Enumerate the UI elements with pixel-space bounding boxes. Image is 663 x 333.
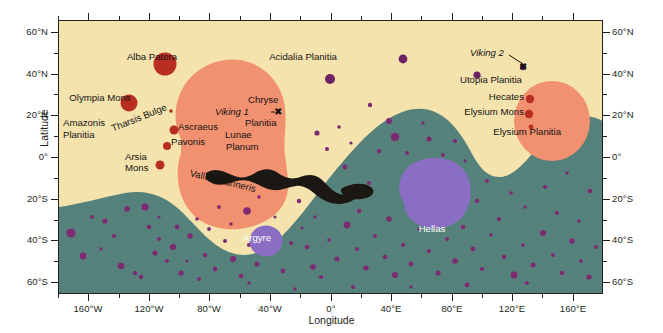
tick-label-lon-0: 160°W	[58, 303, 118, 314]
tick-label-lon-4: 0°	[301, 303, 361, 314]
tick-lon-bottom-8	[573, 294, 574, 301]
tick-lat-right-minor-0	[603, 53, 607, 54]
label-olympia-mons: Olympia Mons	[45, 93, 155, 104]
tick-lon-bottom-7	[512, 294, 513, 301]
label-utopia-planitia: Utopia Planitia	[460, 75, 522, 86]
tick-lon-top-3	[270, 13, 271, 20]
tick-lat-right-2	[603, 115, 610, 116]
tick-lat-left-minor-1	[54, 94, 58, 95]
tick-lon-top-5	[391, 13, 392, 20]
tick-lon-bottom-minor-4	[361, 294, 362, 298]
volcano-hecates-tholus	[526, 95, 534, 103]
label-elysium-planitia: Elysium Planitia	[451, 127, 561, 138]
tick-label-lon-3: 40°W	[240, 303, 300, 314]
label-viking-2: Viking 2	[470, 48, 504, 59]
tick-lat-left-3	[51, 157, 58, 158]
hellas-basin-shape	[399, 158, 471, 229]
tick-lat-right-5	[603, 240, 610, 241]
label-amazonis-planitia-line2: Planitia	[63, 130, 94, 141]
tick-lon-bottom-minor-7	[542, 294, 543, 298]
label-chryse-planitia: Chryse	[248, 95, 278, 106]
tick-lat-left-minor-3	[54, 178, 58, 179]
tick-lat-left-minor-5	[54, 261, 58, 262]
tick-lon-bottom-2	[209, 294, 210, 301]
tick-lat-right-6	[603, 282, 610, 283]
y-axis-label: Latitude	[38, 83, 50, 173]
tick-lon-top-minor-3	[300, 16, 301, 20]
label-amazonis-planitia: Amazonis	[63, 118, 105, 129]
tick-lon-top-1	[149, 13, 150, 20]
label-chryse-planitia-line2: Planitia	[245, 118, 276, 129]
tick-label-lat-left-4: 20°S	[10, 193, 48, 204]
tick-label-lat-left-5: 40°S	[10, 234, 48, 245]
label-lunae-planum: Lunae	[225, 130, 252, 141]
tick-label-lon-5: 40°E	[361, 303, 421, 314]
tick-lat-left-5	[51, 240, 58, 241]
label-hellas-basin: Hellas	[407, 224, 457, 235]
volcano-pavonis-mons	[163, 142, 171, 150]
tick-lon-bottom-4	[331, 294, 332, 301]
tick-lon-bottom-1	[149, 294, 150, 301]
label-pavonis-mons: Pavonis	[171, 137, 205, 148]
label-acidalia-planitia: Acidalia Planitia	[243, 52, 363, 63]
tick-lat-right-minor-2	[603, 136, 607, 137]
tick-lat-right-1	[603, 74, 610, 75]
tick-label-lat-left-1: 40°N	[10, 68, 48, 79]
tick-lon-top-6	[452, 13, 453, 20]
label-lunae-planum-line2: Planum	[226, 142, 259, 153]
tick-lon-top-7	[512, 13, 513, 20]
tick-label-lat-left-6: 60°S	[10, 276, 48, 287]
tick-label-lat-right-5: 40°S	[612, 234, 656, 245]
tick-lat-right-minor-5	[603, 261, 607, 262]
tick-lon-bottom-minor-0	[119, 294, 120, 298]
x-axis-label: Longitude	[0, 314, 663, 326]
tick-label-lat-left-0: 60°N	[10, 26, 48, 37]
tick-lat-left-4	[51, 199, 58, 200]
tick-lon-top-minor-2	[240, 16, 241, 20]
tick-lon-bottom-minor-start	[58, 294, 59, 298]
tick-lat-left-6	[51, 282, 58, 283]
tick-lon-bottom-minor-5	[421, 294, 422, 298]
viking-2-marker: ✖	[519, 61, 527, 72]
tick-lon-top-2	[209, 13, 210, 20]
tick-lon-bottom-minor-6	[482, 294, 483, 298]
volcano-arsia-mons	[156, 161, 165, 170]
label-arsia-mons-line2: Mons	[125, 163, 148, 174]
tick-label-lon-8: 160°E	[543, 303, 603, 314]
elysium-province	[514, 81, 590, 161]
tick-label-lat-right-2: 20°N	[612, 109, 656, 120]
tick-lon-bottom-0	[88, 294, 89, 301]
tick-lat-left-0	[51, 32, 58, 33]
tick-lon-bottom-minor-3	[300, 294, 301, 298]
tick-lat-left-minor-2	[54, 136, 58, 137]
tick-lon-top-minor-5	[421, 16, 422, 20]
volcano-tharsis-small	[169, 109, 173, 113]
tick-lat-right-3	[603, 157, 610, 158]
label-elysium-mons: Elysium Mons	[424, 107, 524, 118]
tick-label-lat-right-1: 40°N	[612, 68, 656, 79]
label-arsia-mons: Arsia	[125, 152, 147, 163]
tick-lon-top-minor-7	[542, 16, 543, 20]
tick-lon-bottom-3	[270, 294, 271, 301]
mars-geologic-map: ✖ ✖ Alba Patera Acidalia Planitia Olympi…	[0, 0, 663, 333]
tick-label-lon-1: 120°W	[119, 303, 179, 314]
tick-lat-right-minor-1	[603, 94, 607, 95]
tick-lat-right-minor-4	[603, 220, 607, 221]
tick-lon-top-minor-start	[58, 16, 59, 20]
tick-lon-top-0	[88, 13, 89, 20]
label-alba-patera: Alba Patera	[102, 52, 202, 63]
tick-lat-right-minor-3	[603, 178, 607, 179]
volcano-elysium-mons	[525, 110, 533, 118]
label-ascraeus-mons: Ascraeus	[178, 122, 218, 133]
label-viking-1: Viking 1	[215, 107, 249, 118]
tick-label-lon-2: 80°W	[179, 303, 239, 314]
tick-lon-bottom-minor-2	[240, 294, 241, 298]
tick-lat-left-2	[51, 115, 58, 116]
tick-label-lat-right-4: 20°S	[612, 193, 656, 204]
label-argyre-basin: Argyre	[232, 233, 282, 244]
tick-lat-right-0	[603, 32, 610, 33]
tick-label-lon-7: 120°E	[482, 303, 542, 314]
viking-1-marker: ✖	[274, 106, 282, 117]
tick-lon-top-8	[573, 13, 574, 20]
tick-lat-left-minor-0	[54, 53, 58, 54]
